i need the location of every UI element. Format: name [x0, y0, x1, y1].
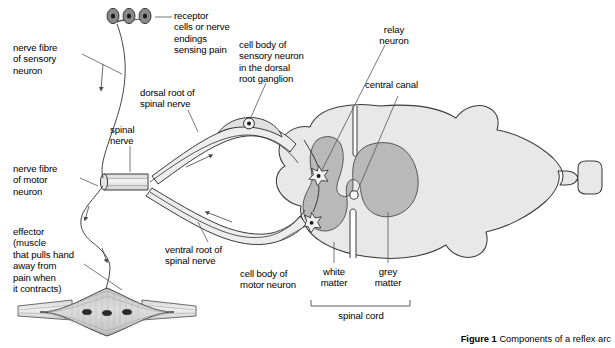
- sensory-fibre-path: [102, 24, 125, 178]
- motor-fibre-path: [81, 186, 110, 294]
- spinal-nerve-tube: [104, 174, 148, 190]
- dorsal-median-sulcus: [353, 106, 357, 156]
- label-grey-matter: grey matter: [364, 266, 412, 289]
- effector-muscle: [18, 288, 196, 336]
- spinal-nerve-trunk: [100, 174, 148, 190]
- receptor-cells: [107, 8, 151, 23]
- reflex-arc-figure: receptor cells or nerve endings sensing …: [0, 0, 615, 348]
- receptor-cell: [139, 8, 151, 23]
- label-white-matter: white matter: [310, 266, 358, 289]
- receptor-cell: [123, 8, 135, 23]
- figure-caption-text: Components of a reflex arc: [497, 334, 611, 344]
- label-nerve-fibre-motor: nerve fibre of motor neuron: [13, 163, 57, 197]
- label-receptor-cells: receptor cells or nerve endings sensing …: [174, 10, 230, 56]
- motor-flow-arrow-2: [102, 248, 107, 262]
- sensory-nerve-fibre: [101, 19, 142, 178]
- label-dorsal-root: dorsal root of spinal nerve: [140, 87, 195, 110]
- spinal-cord-bracket: [311, 300, 410, 306]
- sensory-flow-arrow: [101, 64, 103, 90]
- leader-nerve-fibre-sensory: [82, 54, 122, 74]
- label-relay-neuron: relay neuron: [370, 24, 418, 47]
- label-effector: effector (muscle that pulls hand away fr…: [13, 226, 74, 294]
- reflex-arc-diagram: [0, 0, 615, 348]
- spinal-cord-cross-section: [268, 105, 602, 259]
- label-spinal-cord: spinal cord: [326, 310, 396, 321]
- motor-end-plate: [122, 309, 131, 314]
- dorsal-root-band: [152, 125, 296, 184]
- motor-end-plate: [102, 310, 111, 315]
- leader-cell-body-sensory: [251, 83, 266, 117]
- label-nerve-fibre-sensory: nerve fibre of sensory neuron: [13, 42, 57, 76]
- sensory-neuron-cell-body: [244, 118, 255, 129]
- label-central-canal: central canal: [365, 79, 418, 90]
- label-cell-body-sensory: cell body of sensory neuron in the dorsa…: [239, 39, 304, 85]
- label-ventral-root: ventral root of spinal nerve: [165, 244, 222, 267]
- receptor-cell: [107, 8, 119, 23]
- central-canal: [350, 191, 358, 199]
- leader-effector: [84, 264, 122, 290]
- motor-end-plate: [82, 309, 91, 314]
- figure-caption-number: Figure 1: [461, 334, 497, 344]
- leader-nerve-fibre-motor: [80, 178, 98, 186]
- leader-dorsal-root: [188, 110, 198, 132]
- ventral-root: [146, 188, 306, 245]
- dorsal-root-and-ganglion: [150, 118, 298, 184]
- label-cell-body-motor: cell body of motor neuron: [240, 268, 296, 291]
- label-spinal-nerve: spinal nerve: [110, 124, 134, 147]
- figure-caption: Figure 1 Components of a reflex arc: [461, 334, 611, 344]
- ventral-median-fissure: [350, 209, 356, 258]
- ventral-root-band: [146, 188, 306, 245]
